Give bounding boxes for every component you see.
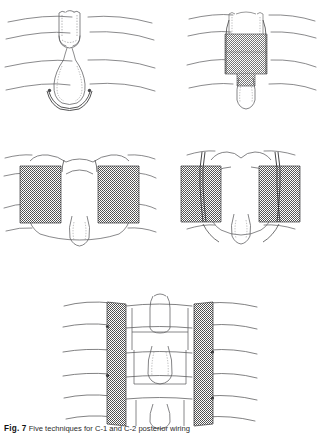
- c2-spinous-process: [54, 60, 85, 105]
- left-strut-graft: [107, 302, 126, 426]
- panel-d-drawing: [159, 128, 318, 278]
- panel-c-drawing: [0, 128, 159, 278]
- panel-a-drawing: [0, 0, 159, 128]
- figure-caption-text: Five techniques for C-1 and C-2 posterio…: [29, 424, 190, 433]
- spinous-process-tip-upper: [150, 294, 170, 333]
- panel-gallie-midline-onlay-graft: [159, 0, 318, 128]
- figure-root: Fig. 7 Five techniques for C-1 and C-2 p…: [0, 0, 318, 437]
- panel-brooks-jenkins-bilateral-grafts-sublaminar-wires: [159, 128, 318, 278]
- figure-number: Fig. 7: [4, 424, 27, 433]
- c2-spinous-process: [231, 214, 250, 244]
- vertebral-column-outline: [132, 308, 188, 426]
- midline-onlay-graft: [225, 34, 267, 86]
- left-wedge-graft: [20, 166, 61, 223]
- lamina-line: [8, 16, 72, 22]
- wire-loop: [47, 91, 92, 111]
- panel-b-drawing: [159, 0, 318, 128]
- c1-arch-hidden-edge: [62, 15, 77, 43]
- figure-caption: Fig. 7 Five techniques for C-1 and C-2 p…: [4, 424, 316, 433]
- panel-e-drawing: [60, 288, 260, 430]
- right-strut-graft: [194, 302, 213, 426]
- panel-gallie-wiring-no-graft: [0, 0, 159, 128]
- panel-brooks-bilateral-wedge-grafts: [0, 128, 159, 278]
- lamina-line: [63, 302, 257, 421]
- panel-bilateral-long-strut-grafts: [60, 288, 260, 430]
- left-wedge-graft: [181, 166, 221, 222]
- right-wedge-graft: [98, 166, 139, 223]
- c2-spinous-process: [69, 216, 89, 246]
